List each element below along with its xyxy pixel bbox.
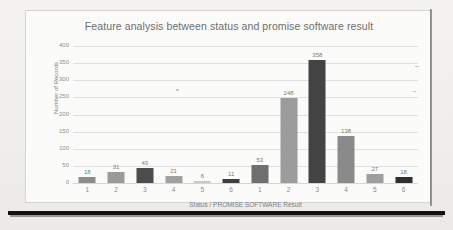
chart-title: Feature analysis between status and prom…	[26, 20, 432, 32]
bar[interactable]	[136, 168, 153, 183]
bar-value-label: 27	[372, 166, 379, 172]
y-tick-label-150: 150	[39, 128, 69, 134]
bar[interactable]	[194, 181, 211, 183]
chart-container: Feature analysis between status and prom…	[25, 10, 431, 203]
y-tick-label-100: 100	[39, 145, 69, 151]
bar-value-label: 358	[312, 52, 322, 58]
x-tick-label: 6	[402, 186, 406, 193]
frame-right-edge	[430, 9, 432, 206]
x-tick-label: 1	[86, 186, 90, 193]
bar-value-label: 138	[341, 128, 351, 134]
y-tick-label-0: 0	[39, 179, 69, 185]
gridline-0	[73, 183, 418, 184]
y-tick-label-50: 50	[39, 162, 69, 168]
bar[interactable]	[251, 165, 268, 183]
x-tick-label: 4	[344, 186, 348, 193]
bar-slot: 65	[188, 46, 217, 183]
bar-value-label: 31	[113, 164, 120, 170]
bar-slot: 433	[131, 46, 160, 183]
x-axis-label: Status / PROMISE SOFTWARE Result	[73, 201, 418, 208]
x-tick-label: 3	[316, 186, 320, 193]
x-tick-label: 1	[258, 186, 262, 193]
bar-slot: 186	[389, 46, 418, 183]
bar-value-label: 18	[400, 169, 407, 175]
bar-slot: 214	[159, 46, 188, 183]
y-axis-label: Number of Records	[53, 62, 59, 114]
bar-value-label: 21	[170, 168, 177, 174]
y-tick-label-200: 200	[39, 111, 69, 117]
bar-value-label: 11	[228, 171, 234, 177]
scan-speck	[413, 91, 416, 92]
bar[interactable]	[280, 98, 297, 183]
bar-slot: 1384	[332, 46, 361, 183]
bar-value-label: 53	[257, 157, 264, 163]
bar[interactable]	[309, 60, 326, 183]
x-tick-label: 5	[201, 186, 205, 193]
bar[interactable]	[366, 174, 383, 183]
bar-slot: 181	[73, 46, 102, 183]
scan-speck	[415, 66, 419, 67]
bar-value-label: 43	[142, 160, 149, 166]
bar-slot: 275	[361, 46, 390, 183]
x-tick-label: 4	[172, 186, 176, 193]
bar[interactable]	[338, 136, 355, 183]
bar-series: 18131243321465116531248235831384275186	[73, 46, 418, 183]
plot-area: 050100150200250300350400 181312433214651…	[73, 46, 418, 183]
bar-slot: 2482	[274, 46, 303, 183]
scan-speck	[176, 89, 179, 91]
x-tick-label: 2	[287, 186, 291, 193]
x-tick-label: 2	[114, 186, 118, 193]
y-tick-label-300: 300	[39, 76, 69, 82]
bar-slot: 3583	[303, 46, 332, 183]
bar[interactable]	[165, 176, 182, 183]
bar-value-label: 248	[284, 90, 294, 96]
page-divider-shadow	[10, 215, 443, 217]
bar-value-label: 6	[201, 173, 204, 179]
bar-value-label: 18	[84, 169, 91, 175]
y-tick-label-350: 350	[39, 59, 69, 65]
bar-slot: 312	[102, 46, 131, 183]
x-tick-label: 5	[373, 186, 377, 193]
y-tick-label-400: 400	[39, 42, 69, 48]
bar-slot: 531	[246, 46, 275, 183]
x-tick-label: 3	[143, 186, 147, 193]
bar-slot: 116	[217, 46, 246, 183]
bar[interactable]	[108, 172, 125, 183]
x-tick-label: 6	[229, 186, 233, 193]
bar[interactable]	[395, 177, 412, 183]
y-tick-label-250: 250	[39, 93, 69, 99]
bar[interactable]	[223, 179, 240, 183]
bar[interactable]	[79, 177, 96, 183]
